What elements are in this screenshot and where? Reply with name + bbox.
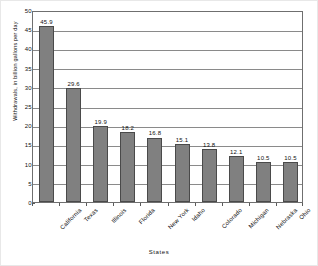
x-tick-mark [168, 203, 169, 206]
plot-area: 45.929.619.918.216.815.113.812.110.510.5 [32, 11, 303, 203]
bar-value-label: 10.5 [257, 155, 269, 161]
x-axis-title: States [0, 249, 318, 255]
y-tick-label: 10 [6, 162, 32, 168]
x-label-illinois: Illinois [110, 207, 127, 224]
x-tick-mark [113, 203, 114, 206]
bar-texas [66, 88, 81, 202]
bar-california [39, 26, 54, 202]
bar-value-label: 13.8 [203, 142, 215, 148]
y-tick-label: 30 [6, 85, 32, 91]
x-label-california: California [59, 207, 83, 231]
x-tick-mark [302, 203, 303, 206]
x-label-nebraska: Nebraska [275, 207, 299, 231]
bar-value-label: 18.2 [122, 125, 134, 131]
x-label-ohio: Ohio [298, 207, 312, 221]
x-tick-mark [140, 203, 141, 206]
bar-value-label: 45.9 [40, 19, 52, 25]
bar-chart: Withdrawals, in billion gallons per day … [0, 0, 318, 266]
y-axis-ticks: 05101520253035404550 [0, 11, 32, 203]
bar-new-york [147, 138, 162, 203]
x-label-idaho: Idaho [191, 207, 207, 223]
y-tick-label: 35 [6, 66, 32, 72]
y-tick-label: 40 [6, 46, 32, 52]
y-tick-label: 0 [6, 200, 32, 206]
bar-nebraska [256, 162, 271, 202]
bar-value-label: 16.8 [149, 130, 161, 136]
gridline [33, 31, 302, 32]
bar-colorado [202, 149, 217, 202]
bar-value-label: 15.1 [176, 137, 188, 143]
y-tick-label: 20 [6, 123, 32, 129]
y-tick-label: 5 [6, 181, 32, 187]
x-tick-mark [86, 203, 87, 206]
x-tick-mark [59, 203, 60, 206]
x-tick-mark [249, 203, 250, 206]
x-label-new-york: New York [167, 207, 190, 230]
bar-value-label: 29.6 [67, 81, 79, 87]
bar-value-label: 10.5 [284, 155, 296, 161]
x-axis-category-labels: CaliforniaTexasIllinoisFloridaNew YorkId… [32, 207, 303, 247]
bar-value-label: 19.9 [95, 119, 107, 125]
gridline [33, 69, 302, 70]
y-tick-label: 25 [6, 104, 32, 110]
bar-florida [120, 132, 135, 202]
x-label-florida: Florida [138, 207, 156, 225]
y-tick-label: 50 [6, 8, 32, 14]
y-tick-label: 15 [6, 142, 32, 148]
bar-michigan [229, 156, 244, 202]
x-label-texas: Texas [83, 207, 99, 223]
bar-value-label: 12.1 [230, 149, 242, 155]
x-tick-mark [195, 203, 196, 206]
bar-ohio [283, 162, 298, 202]
y-tick-label: 45 [6, 27, 32, 33]
bar-idaho [175, 144, 190, 202]
gridline [33, 50, 302, 51]
x-label-colorado: Colorado [221, 207, 244, 230]
x-tick-mark [32, 203, 33, 206]
bar-illinois [93, 126, 108, 202]
x-tick-mark [276, 203, 277, 206]
x-label-michigan: Michigan [248, 207, 270, 229]
x-tick-mark [222, 203, 223, 206]
